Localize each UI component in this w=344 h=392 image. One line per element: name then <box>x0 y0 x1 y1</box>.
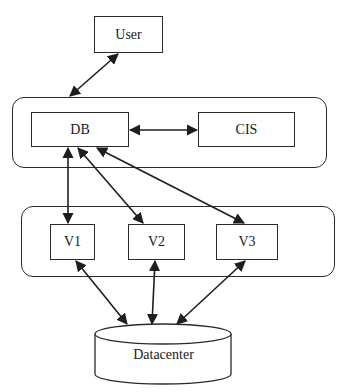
diagram-canvas: User DB CIS V1 V2 V3 Datacenter <box>0 0 344 392</box>
user-node: User <box>94 16 163 53</box>
v3-node: V3 <box>216 224 278 260</box>
connector-arrows <box>0 0 344 392</box>
v2-node: V2 <box>128 224 185 260</box>
user-label: User <box>115 27 141 43</box>
v1-node: V1 <box>50 224 95 260</box>
v1-label: V1 <box>64 234 81 250</box>
arrow-db-v2 <box>78 148 143 223</box>
arrow-v2-datacenter <box>152 261 155 324</box>
arrow-v1-datacenter <box>76 261 127 324</box>
cis-node: CIS <box>198 112 295 147</box>
arrow-user-group <box>70 54 118 96</box>
v2-label: V2 <box>148 234 165 250</box>
db-label: DB <box>70 122 89 138</box>
cis-label: CIS <box>236 122 258 138</box>
datacenter-label: Datacenter <box>95 347 232 363</box>
db-node: DB <box>31 112 129 147</box>
arrow-db-v3 <box>97 148 244 223</box>
v3-label: V3 <box>238 234 255 250</box>
arrow-v3-datacenter <box>177 261 245 324</box>
